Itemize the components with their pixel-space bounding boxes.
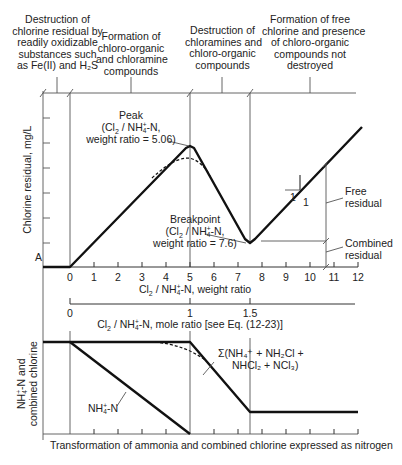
- phase-text: as Fe(II) and H₂S: [10, 60, 105, 72]
- tick-label: 6: [208, 272, 220, 284]
- slope-triangle: [285, 175, 300, 190]
- sum-label-line1: Σ(NH₄⁺ + NH₂Cl +: [218, 348, 304, 360]
- slope-horizontal-label: 1: [290, 192, 296, 204]
- breakpoint-annotation: Breakpoint (Cl2 / NH+4-N, weight ratio =…: [150, 214, 240, 249]
- tick-label: 5: [184, 272, 196, 284]
- mole-ratio-axis-label: Cl2 / NH+4-N, mole ratio [see Eq. (12-23…: [95, 319, 285, 331]
- tick-label: 3: [136, 272, 148, 284]
- tick-label: 8: [256, 272, 268, 284]
- peak-weight-ratio: weight ratio = 5.06): [86, 134, 176, 146]
- tick-label: 10: [302, 272, 318, 284]
- phase-text: compounds: [96, 66, 166, 78]
- phase-label-free-chlorine: Formation of free chlorine and presence …: [262, 14, 358, 72]
- weight-ratio-axis-label: Cl2 / NH+4-N, weight ratio: [120, 284, 270, 296]
- breakpoint-weight-ratio: weight ratio = 7.6): [150, 238, 240, 250]
- phase-text: chloro-organic: [185, 48, 260, 60]
- ammonia-label: NH+4-N: [88, 403, 118, 415]
- mole-tick-label: 0: [64, 308, 76, 320]
- free-residual-text: residual: [345, 198, 382, 210]
- tick-label: 7: [232, 272, 244, 284]
- combined-residual-text: Combined: [345, 238, 393, 250]
- phase-label-formation-chloramine: Formation of chloro-organic and chlorami…: [96, 31, 166, 77]
- sum-label-line2: NHCl₂ + NCl₃): [218, 360, 304, 372]
- point-a-label: A: [35, 252, 42, 264]
- phase-text: of chloro-organic: [262, 37, 358, 49]
- tick-label: 0: [64, 272, 76, 284]
- phase-label-oxidizable: Destruction of chlorine residual by read…: [10, 14, 105, 72]
- ammonia-curve: [70, 342, 190, 434]
- phase-text: Formation of free: [262, 14, 358, 26]
- phase-text: Destruction of: [185, 25, 260, 37]
- phase-text: Destruction of: [10, 14, 105, 26]
- combined-sum-label: Σ(NH₄⁺ + NH₂Cl + NHCl₂ + NCl₃): [218, 348, 304, 371]
- peak-ratio-line: (Cl2 / NH+4-N,: [86, 122, 176, 134]
- tick-label: 1: [88, 272, 100, 284]
- phase-text: Formation of: [96, 31, 166, 43]
- tick-label: 2: [112, 272, 124, 284]
- phase-text: readily oxidizable: [10, 37, 105, 49]
- phase-text: and chloramine: [96, 54, 166, 66]
- tick-label: 11: [326, 272, 342, 284]
- combined-residual-label: Combined residual: [345, 238, 393, 261]
- peak-annotation: Peak (Cl2 / NH+4-N, weight ratio = 5.06): [86, 110, 176, 145]
- tick-label: 9: [280, 272, 292, 284]
- free-residual-text: Free: [345, 186, 382, 198]
- y-axis-label-line2: combined chlorine: [28, 332, 40, 436]
- y-axis-label-chlorine-residual: Chlorine residual, mg/L: [22, 115, 34, 245]
- y-axis-label-nitrogen: NH+4-N and combined chlorine: [16, 332, 40, 436]
- slope-vertical-label: 1: [303, 197, 309, 209]
- breakpoint-ratio-line: (Cl2 / NH+4-N,: [150, 226, 240, 238]
- tick-label: 4: [160, 272, 172, 284]
- lower-x-axis-label: Transformation of ammonia and combined c…: [50, 440, 370, 452]
- free-residual-label: Free residual: [345, 186, 382, 209]
- tick-label: 12: [350, 272, 366, 284]
- combined-residual-text: residual: [345, 250, 393, 262]
- phase-text: destroyed: [262, 60, 358, 72]
- phase-label-destruction-chloramine: Destruction of chloramines and chloro-or…: [185, 25, 260, 71]
- phase-text: compounds: [185, 60, 260, 72]
